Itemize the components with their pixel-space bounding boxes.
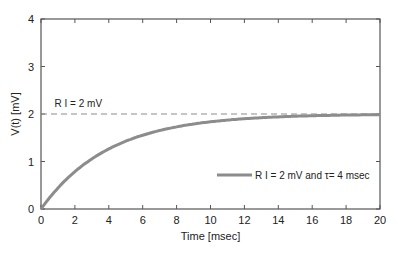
x-tick-label: 16 xyxy=(306,214,318,226)
x-axis-title: Time [msec] xyxy=(181,230,241,242)
x-tick-label: 20 xyxy=(374,214,386,226)
x-tick-label: 4 xyxy=(106,214,112,226)
y-tick-label: 2 xyxy=(28,108,34,120)
plot-area: 0246810121416182001234Time [msec]V(t) [m… xyxy=(9,13,386,242)
y-axis-title: V(t) [mV] xyxy=(9,92,21,135)
chart: 0246810121416182001234Time [msec]V(t) [m… xyxy=(0,0,398,254)
x-tick-label: 6 xyxy=(140,214,146,226)
x-tick-label: 14 xyxy=(272,214,284,226)
x-tick-label: 8 xyxy=(174,214,180,226)
y-tick-label: 0 xyxy=(28,203,34,215)
asymptote-label: R I = 2 mV xyxy=(55,98,103,109)
x-tick-label: 18 xyxy=(340,214,352,226)
x-tick-label: 2 xyxy=(72,214,78,226)
legend-label: R I = 2 mV and τ= 4 msec xyxy=(255,170,370,181)
y-tick-label: 4 xyxy=(28,13,34,25)
x-tick-label: 10 xyxy=(204,214,216,226)
x-tick-label: 12 xyxy=(238,214,250,226)
x-tick-label: 0 xyxy=(38,214,44,226)
y-tick-label: 3 xyxy=(28,61,34,73)
voltage-curve xyxy=(41,115,380,209)
y-tick-label: 1 xyxy=(28,156,34,168)
